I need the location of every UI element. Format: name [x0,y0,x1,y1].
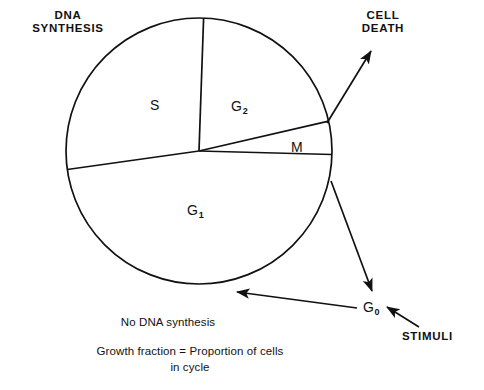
caption-no-dna-synthesis: No DNA synthesis [0,316,336,329]
stimuli-label: STIMULI [402,330,453,343]
divider-g2-m [199,121,329,151]
dna-synthesis-line1: DNA [18,9,118,22]
phase-label-s: S [150,98,160,114]
phase-label-g1-subscript: 1 [199,210,204,220]
phase-label-m: M [291,140,303,156]
caption-growth-fraction: Growth fraction = Proportion of cells [0,345,380,358]
g0-exit-arrow [331,181,372,291]
cell-cycle-figure: DNA SYNTHESIS CELL DEATH STIMULI S G2 M … [0,0,484,390]
caption-in-cycle: in cycle [0,361,380,374]
cell-death-arrow [327,51,371,123]
phase-label-g2-text: G [231,98,242,114]
phase-label-g2: G2 [231,99,248,115]
g0-node-label: G0 [363,300,379,316]
phase-label-g1: G1 [187,203,204,219]
phase-label-g1-text: G [187,202,198,218]
cell-death-line2: DEATH [333,22,433,35]
g0-node-subscript: 0 [374,307,379,317]
phase-label-g2-subscript: 2 [243,106,248,116]
cell-death-line1: CELL [333,9,433,22]
phase-label-m-text: M [291,139,303,155]
cell-death-label: CELL DEATH [333,9,433,35]
dna-synthesis-label: DNA SYNTHESIS [18,9,118,35]
divider-g1-s [67,151,199,170]
phase-label-s-text: S [150,97,160,113]
g0-reentry-arrow [237,292,357,308]
stimuli-arrow [387,307,419,327]
dna-synthesis-line2: SYNTHESIS [18,22,118,35]
divider-m-g1 [199,151,332,155]
g0-node-text: G [363,299,374,315]
divider-s-g2 [199,18,204,151]
